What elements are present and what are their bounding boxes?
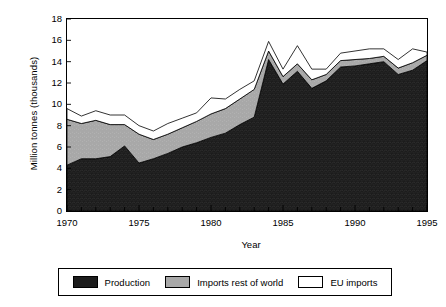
imports-rest-of-world-swatch <box>165 276 190 288</box>
y-tick-label: 6 <box>44 142 62 152</box>
figure: Million tonnes (thousands) 0246810121416… <box>0 0 446 307</box>
y-tick-label: 0 <box>44 206 62 216</box>
x-tick-label: 1985 <box>263 218 303 228</box>
legend-entry: Imports rest of world <box>165 276 283 288</box>
y-tick-label: 4 <box>44 163 62 173</box>
y-axis-tick-labels: 024681012141618 <box>42 0 62 307</box>
legend-entry: Production <box>73 276 150 288</box>
plot-area <box>66 18 428 212</box>
y-tick-label: 14 <box>44 57 62 67</box>
y-tick-label: 10 <box>44 99 62 109</box>
x-tick-label: 1990 <box>335 218 375 228</box>
x-tick-label: 1995 <box>407 218 446 228</box>
area-chart-svg <box>67 19 427 211</box>
y-tick-label: 8 <box>44 121 62 131</box>
x-tick-label: 1980 <box>191 218 231 228</box>
eu-imports-swatch <box>298 276 323 288</box>
x-axis-tick-labels: 197019751980198519901995 <box>0 218 446 232</box>
y-tick-label: 2 <box>44 185 62 195</box>
y-axis-title: Million tonnes (thousands) <box>28 19 39 209</box>
y-tick-label: 18 <box>44 14 62 24</box>
production-swatch <box>73 276 98 288</box>
x-tick-label: 1970 <box>47 218 87 228</box>
x-tick-label: 1975 <box>119 218 159 228</box>
y-tick-label: 12 <box>44 78 62 88</box>
chart-legend: ProductionImports rest of worldEU import… <box>58 268 392 296</box>
x-axis-title: Year <box>66 239 436 250</box>
legend-entry: EU imports <box>298 276 377 288</box>
y-tick-label: 16 <box>44 35 62 45</box>
legend-label: EU imports <box>330 277 377 288</box>
legend-label: Imports rest of world <box>197 277 283 288</box>
legend-label: Production <box>105 277 150 288</box>
